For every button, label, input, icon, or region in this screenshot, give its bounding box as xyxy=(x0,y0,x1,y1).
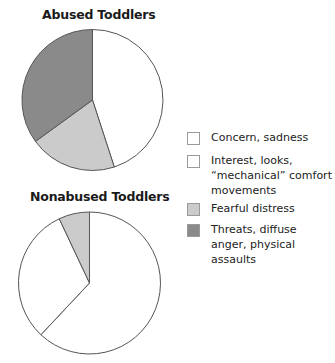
legend-label-concern: Concern, sadness xyxy=(211,130,335,145)
legend-swatch-threats xyxy=(187,224,200,237)
legend-label-interest: Interest, looks, “mechanical” comfort mo… xyxy=(211,153,335,198)
legend-label-fearful: Fearful distress xyxy=(211,201,335,216)
abused-pie xyxy=(22,29,163,170)
nonabused-pie xyxy=(18,212,160,354)
legend-swatch-concern xyxy=(187,132,200,145)
legend-swatch-interest xyxy=(187,155,200,168)
legend-swatch-fearful xyxy=(187,203,200,216)
legend-label-threats: Threats, diffuse anger, physical assault… xyxy=(211,222,335,267)
